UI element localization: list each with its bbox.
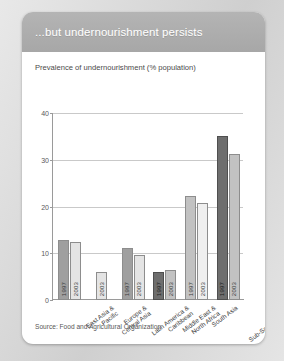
chart-axis-title: Prevalence of undernourishment (% popula…: [35, 63, 196, 72]
bar-2003: 2003: [96, 272, 107, 300]
bar-2003: 2003: [165, 270, 176, 300]
y-axis-tick-mark: [50, 160, 53, 161]
gridline: [53, 160, 243, 161]
bar-year-label: 2003: [231, 282, 237, 296]
bar-1997: 1997: [58, 240, 69, 300]
bar-1997: 1997: [217, 136, 228, 300]
y-axis-tick-mark: [50, 300, 53, 301]
y-axis-tick-label: 30: [41, 156, 49, 163]
bar-year-label: 1997: [124, 282, 130, 296]
bar-2003: 2003: [70, 242, 81, 300]
y-axis-tick-mark: [50, 207, 53, 208]
x-axis-category-label: Sub-Saharan Africa: [247, 304, 265, 343]
bar-year-label: 1997: [219, 282, 225, 296]
gridline: [53, 113, 243, 114]
chart-body: Prevalence of undernourishment (% popula…: [22, 52, 265, 344]
bar-year-label: 1997: [61, 282, 67, 296]
bar-2003: 2003: [134, 255, 145, 300]
bar-year-label: 1997: [188, 282, 194, 296]
plot-area: 010203040 199720032003199720031997200319…: [53, 113, 243, 300]
gridline: [53, 253, 243, 254]
bar-year-label: 2003: [168, 282, 174, 296]
y-axis-tick-mark: [50, 113, 53, 114]
chart-card: ...but undernourishment persists Prevale…: [22, 12, 265, 344]
bar-2003: 2003: [197, 203, 208, 300]
bar-year-label: 2003: [73, 282, 79, 296]
bar-year-label: 2003: [99, 282, 105, 296]
y-axis-tick-label: 0: [45, 297, 49, 304]
bar-year-label: 2003: [200, 282, 206, 296]
bar-year-label: 2003: [136, 282, 142, 296]
category-label-line: Sub-Saharan Africa: [247, 304, 265, 343]
source-note: Source: Food and Agricultural Organizati…: [35, 323, 161, 330]
bar-1997: 1997: [185, 196, 196, 300]
page-title: ...but undernourishment persists: [35, 26, 202, 38]
gridline: [53, 207, 243, 208]
bar-year-label: 1997: [156, 282, 162, 296]
bar-1997: 1997: [153, 272, 164, 300]
y-axis-tick-label: 40: [41, 110, 49, 117]
y-axis-tick-mark: [50, 253, 53, 254]
x-axis-category-label: Europe &Central Asia: [116, 304, 152, 337]
bar-2003: 2003: [229, 154, 240, 300]
y-axis-tick-label: 20: [41, 203, 49, 210]
x-axis-category-label: East Asia &Pacific: [84, 304, 119, 336]
card-header: ...but undernourishment persists: [22, 12, 265, 52]
bar-1997: 1997: [122, 248, 133, 300]
y-axis-tick-label: 10: [41, 250, 49, 257]
